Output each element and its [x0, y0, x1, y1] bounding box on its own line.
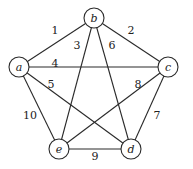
node-label: c	[165, 61, 171, 74]
edge-weight-label: 9	[92, 150, 99, 163]
edge-weight-label: 10	[23, 109, 37, 122]
node-label: e	[56, 143, 63, 156]
edge-weight-label: 3	[74, 39, 81, 52]
edge-weight-label: 2	[128, 24, 135, 37]
nodes-group: abcde	[9, 8, 178, 159]
node-label: a	[16, 61, 23, 74]
node-e: e	[49, 139, 69, 159]
edge-labels-group: 12345678910	[23, 24, 161, 163]
node-c: c	[158, 57, 178, 77]
weighted-graph: 12345678910 abcde	[0, 0, 193, 169]
node-label: b	[90, 12, 97, 25]
edge-b-d	[94, 18, 131, 149]
edge-weight-label: 7	[154, 109, 161, 122]
node-d: d	[121, 139, 141, 159]
node-label: d	[127, 143, 134, 156]
edge-weight-label: 1	[52, 24, 59, 37]
edge-weight-label: 4	[52, 57, 59, 70]
edge-weight-label: 5	[48, 78, 55, 91]
node-a: a	[9, 57, 29, 77]
node-b: b	[84, 8, 104, 28]
edge-weight-label: 6	[109, 39, 116, 52]
edges-group	[19, 18, 168, 149]
edge-weight-label: 8	[135, 78, 142, 91]
